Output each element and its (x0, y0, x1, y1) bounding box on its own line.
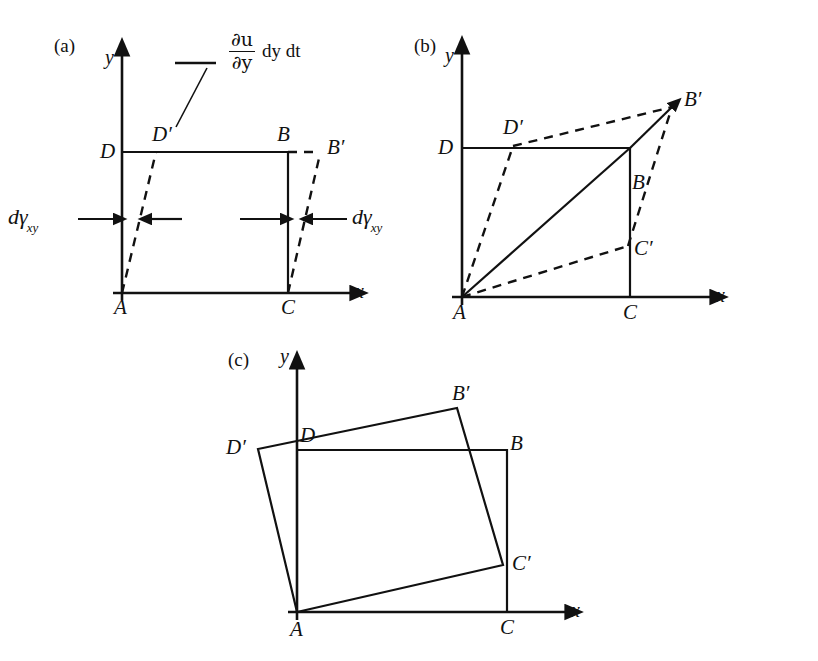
panel-c-vertex-C-prime: C′ (512, 553, 531, 574)
panel-b-dashed-D-primeB-prime (513, 107, 672, 146)
panel-b-tag: (b) (414, 36, 436, 55)
shear-label-right-main: dγ (352, 204, 372, 229)
panel-b-vertex-C: C (623, 302, 637, 323)
panel-a-velocity-gradient-formula: ∂u ∂y dy dt (228, 30, 301, 73)
shear-label-left-main: dγ (8, 204, 28, 229)
panel-c-vertex-B: B (510, 433, 523, 454)
panel-a-vertex-C: C (281, 297, 295, 318)
panel-a-leader-line (176, 68, 207, 127)
panel-c-vertex-B-prime: B′ (452, 383, 469, 404)
panel-c-vertex-A: A (290, 619, 303, 640)
panel-b-vertex-B-prime: B′ (684, 89, 701, 110)
panel-b-diagonal-AB (462, 148, 630, 297)
panel-b-vertex-D: D (438, 137, 453, 158)
panel-b-graphics (452, 52, 712, 305)
panel-a-y-axis-label: y (105, 47, 114, 67)
panel-a-vertex-D-prime: D′ (152, 124, 172, 145)
panel-c-x-axis-label: x (571, 600, 580, 620)
panel-b-dashed-AC-prime (462, 246, 628, 297)
panel-c-vertex-D: D (300, 425, 315, 446)
panel-b-segment-BB-prime (630, 107, 672, 148)
figure-root: (a) y x D D′ B B′ A C ∂u ∂y dy dt dγxy d… (0, 0, 818, 661)
panel-a-vertex-A: A (114, 297, 127, 318)
formula-suffix: dy dt (262, 40, 301, 62)
panel-c-vertex-D-prime: D′ (226, 437, 246, 458)
formula-numerator: ∂u (228, 30, 256, 51)
panel-c-y-axis-label: y (280, 346, 289, 366)
shear-label-left-subscript: xy (27, 220, 39, 235)
panel-a-tag: (a) (54, 36, 75, 55)
panel-a-dashed-CB-prime (288, 154, 320, 293)
panel-a-shear-label-right: dγxy (352, 206, 383, 231)
panel-a-graphics (78, 54, 352, 300)
panel-a-shear-label-left: dγxy (8, 206, 39, 231)
panel-a-x-axis-label: x (355, 281, 364, 301)
panel-b-vertex-C-prime: C′ (634, 238, 653, 259)
panel-c-rotated-quadrilateral (258, 408, 503, 612)
panel-b-vertex-A: A (453, 302, 466, 323)
panel-a-vertex-B-prime: B′ (327, 137, 344, 158)
panel-a-dashed-AD-prime (122, 152, 156, 293)
panel-b-x-axis-label: x (716, 285, 725, 305)
formula-fraction: ∂u ∂y (228, 30, 256, 73)
panel-a-vertex-D: D (100, 141, 115, 162)
shear-label-right-subscript: xy (371, 220, 383, 235)
panel-c-tag: (c) (228, 350, 249, 369)
panel-b-vertex-B: B (632, 172, 645, 193)
panel-c-graphics (258, 367, 567, 620)
formula-denominator: ∂y (229, 51, 256, 73)
panel-c-vertex-C: C (500, 617, 514, 638)
panel-b-y-axis-label: y (445, 45, 454, 65)
panel-a-vertex-B: B (277, 124, 290, 145)
panel-b-vertex-D-prime: D′ (503, 117, 523, 138)
panel-a-element-rectangle (122, 152, 288, 293)
